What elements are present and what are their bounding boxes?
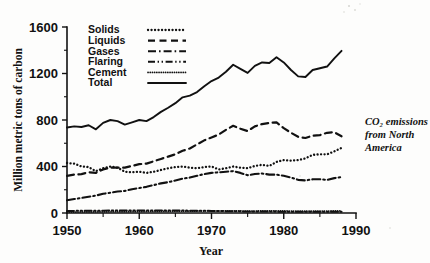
y-axis-title: Million metric tons of carbon: [12, 48, 24, 192]
y-tick-label: 0: [51, 206, 58, 221]
y-tick-label: 1200: [29, 66, 58, 81]
x-axis-title: Year: [199, 244, 224, 258]
y-tick-label: 800: [36, 113, 58, 128]
annotation-line-2: from North: [365, 129, 414, 140]
annotation-line-1: CO₂ emissions: [365, 116, 428, 127]
y-tick-label: 1600: [29, 20, 58, 35]
annotation-line-3: America: [364, 142, 402, 153]
chart-figure: 040080012001600 19501960197019801990 Yea…: [0, 0, 430, 263]
legend-label: Total: [88, 76, 112, 88]
x-tick-label: 1980: [269, 223, 298, 238]
x-tick-label: 1990: [342, 223, 371, 238]
y-tick-label: 400: [36, 159, 58, 174]
x-tick-label: 1960: [125, 223, 154, 238]
co2-emissions-line-chart: 040080012001600 19501960197019801990 Yea…: [0, 0, 430, 263]
x-tick-label: 1970: [197, 223, 226, 238]
x-tick-label: 1950: [53, 223, 82, 238]
